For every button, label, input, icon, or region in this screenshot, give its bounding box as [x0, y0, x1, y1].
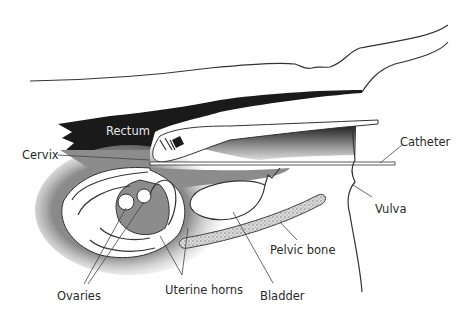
label-pelvic-bone: Pelvic bone: [270, 243, 335, 257]
leader-pelvic-bone: [280, 222, 297, 240]
catheter-tube: [150, 162, 395, 165]
tail-outline: [362, 42, 448, 92]
label-rectum: Rectum: [106, 124, 150, 138]
label-vulva: Vulva: [375, 202, 406, 216]
ovary-left: [118, 194, 134, 210]
ovary-right: [137, 189, 151, 203]
label-cervix: Cervix: [22, 148, 59, 162]
label-ovaries: Ovaries: [57, 289, 101, 303]
leader-vulva: [353, 185, 372, 197]
label-catheter: Catheter: [400, 135, 451, 149]
leader-catheter: [380, 145, 402, 163]
label-bladder: Bladder: [260, 289, 305, 303]
label-uterine-horns: Uterine horns: [165, 283, 243, 297]
reproductive-tract-diagram: Rectum Cervix Catheter Vulva Pelvic bone…: [0, 0, 468, 317]
back-outline: [30, 25, 448, 81]
